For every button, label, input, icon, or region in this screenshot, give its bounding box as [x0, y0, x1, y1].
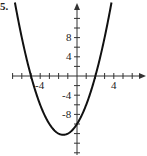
y-tick-label-8: 8 [66, 32, 72, 43]
x-axis-arrow-icon [139, 73, 146, 79]
y-tick-label-neg4: -4 [62, 90, 71, 101]
y-axis-arrow-icon [74, 3, 80, 10]
x-tick-label-4: 4 [111, 80, 117, 91]
y-tick-label-4: 4 [66, 51, 72, 62]
y-tick-label-neg8: -8 [62, 109, 71, 120]
x-tick-label-neg4: -4 [35, 80, 44, 91]
parabola-chart [0, 0, 147, 156]
